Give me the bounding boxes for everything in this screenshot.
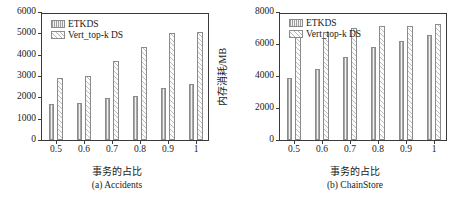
bar-etkds-a-2 [105, 98, 110, 140]
bar-etkds-b-2 [343, 57, 348, 140]
legend-label-vert-b: Vert_top-k DS [306, 29, 361, 39]
plot-area-chainstore: 02000400060008000 0.50.60.70.80.91 ETKDS… [279, 13, 447, 141]
x-tick-label-a-5: 1 [194, 145, 199, 155]
x-tick-label-a-2: 0.7 [106, 145, 118, 155]
y-tick-mark-a-6 [38, 12, 42, 13]
bar-etkds-a-0 [49, 104, 54, 140]
panel-accidents: 内存消耗/MB 0100020003000400050006000 0.50.6… [0, 0, 234, 198]
bar-vert-top-k-ds-b-3 [379, 26, 385, 140]
y-tick-mark-a-5 [38, 33, 42, 34]
legend-entry-vert-a: Vert_top-k DS [51, 30, 123, 40]
y-tick-label-a-1: 1000 [17, 114, 36, 124]
bar-vert-top-k-ds-b-0 [295, 36, 301, 140]
y-tick-mark-b-0 [276, 140, 280, 141]
bar-etkds-b-5 [427, 35, 432, 140]
bar-etkds-b-3 [371, 47, 376, 140]
legend-entry-etkds-b: ETKDS [289, 18, 361, 28]
x-tick-label-a-1: 0.6 [78, 145, 90, 155]
x-tick-label-b-1: 0.6 [316, 145, 328, 155]
bar-vert-top-k-ds-b-1 [323, 32, 329, 140]
legend-label-etkds-b: ETKDS [306, 18, 337, 28]
y-tick-label-b-4: 8000 [255, 7, 274, 17]
x-tick-label-b-2: 0.7 [344, 145, 356, 155]
x-tick-label-a-0: 0.5 [50, 145, 62, 155]
legend-swatch-etkds-icon-b [289, 19, 303, 27]
bar-vert-top-k-ds-a-2 [113, 61, 119, 140]
y-tick-label-a-0: 0 [31, 135, 36, 145]
x-axis-title-b: 事务的占比 [238, 163, 468, 178]
y-tick-mark-a-3 [38, 76, 42, 77]
y-axis-title-wrap-a: 内存消耗/MB [13, 14, 14, 140]
y-tick-mark-a-2 [38, 97, 42, 98]
y-tick-mark-a-0 [38, 140, 42, 141]
legend-b: ETKDS Vert_top-k DS [288, 17, 363, 40]
bar-vert-top-k-ds-a-0 [57, 78, 63, 141]
plot-area-accidents: 0100020003000400050006000 0.50.60.70.80.… [41, 13, 209, 141]
y-tick-label-a-6: 6000 [17, 7, 36, 17]
legend-entry-etkds-a: ETKDS [51, 19, 123, 29]
y-tick-label-b-2: 4000 [255, 71, 274, 81]
x-tick-label-a-4: 0.9 [162, 145, 174, 155]
legend-label-etkds-a: ETKDS [68, 19, 99, 29]
y-tick-mark-b-4 [276, 12, 280, 13]
bar-vert-top-k-ds-a-1 [85, 76, 91, 140]
x-tick-label-a-3: 0.8 [134, 145, 146, 155]
bar-etkds-a-1 [77, 103, 82, 140]
bar-etkds-a-5 [189, 84, 194, 140]
y-tick-mark-b-1 [276, 108, 280, 109]
legend-label-vert-a: Vert_top-k DS [68, 30, 123, 40]
y-tick-mark-a-1 [38, 119, 42, 120]
bar-etkds-b-4 [399, 41, 404, 140]
y-axis-title-b: 内存消耗/MB [214, 27, 229, 127]
bar-etkds-b-1 [315, 69, 320, 140]
bar-vert-top-k-ds-a-3 [141, 47, 147, 140]
bar-etkds-a-4 [161, 88, 166, 140]
bar-vert-top-k-ds-b-4 [407, 26, 413, 140]
bar-etkds-a-3 [133, 96, 138, 140]
y-tick-mark-b-2 [276, 76, 280, 77]
bar-vert-top-k-ds-b-5 [435, 24, 441, 140]
x-tick-label-b-5: 1 [432, 145, 437, 155]
x-tick-label-b-4: 0.9 [400, 145, 412, 155]
y-tick-label-b-0: 0 [269, 135, 274, 145]
y-axis-title-wrap-b: 内存消耗/MB [251, 14, 252, 140]
y-tick-mark-b-3 [276, 44, 280, 45]
y-tick-label-a-5: 5000 [17, 29, 36, 39]
bar-vert-top-k-ds-a-4 [169, 33, 175, 140]
y-tick-mark-a-4 [38, 55, 42, 56]
panel-caption-b: (b) ChainStore [238, 180, 468, 190]
legend-swatch-vert-icon-a [51, 31, 65, 39]
y-tick-label-a-2: 2000 [17, 93, 36, 103]
y-tick-label-a-3: 3000 [17, 71, 36, 81]
legend-entry-vert-b: Vert_top-k DS [289, 29, 361, 39]
panel-caption-a: (a) Accidents [0, 180, 234, 190]
y-tick-label-a-4: 4000 [17, 50, 36, 60]
bar-etkds-b-0 [287, 78, 292, 140]
legend-swatch-etkds-icon-a [51, 20, 65, 28]
legend-swatch-vert-icon-b [289, 30, 303, 38]
bar-vert-top-k-ds-a-5 [197, 32, 203, 140]
y-tick-label-b-3: 6000 [255, 39, 274, 49]
x-tick-label-b-0: 0.5 [288, 145, 300, 155]
x-tick-label-b-3: 0.8 [372, 145, 384, 155]
figure-two-panel-bar-charts: 内存消耗/MB 0100020003000400050006000 0.50.6… [0, 0, 468, 198]
y-tick-label-b-1: 2000 [255, 103, 274, 113]
panel-chainstore: 内存消耗/MB 02000400060008000 0.50.60.70.80.… [234, 0, 468, 198]
bar-vert-top-k-ds-b-2 [351, 28, 357, 140]
x-axis-title-a: 事务的占比 [0, 163, 234, 178]
legend-a: ETKDS Vert_top-k DS [50, 18, 125, 41]
